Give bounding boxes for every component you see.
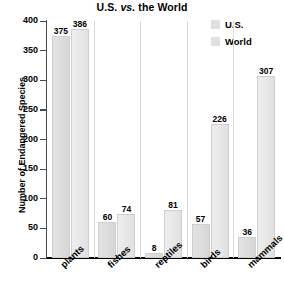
y-tick-label: 250	[4, 104, 38, 114]
y-tick-label: 0	[4, 252, 38, 262]
y-tick-mark	[40, 109, 47, 110]
y-tick-mark	[40, 198, 47, 199]
bar-value-label: 60	[103, 212, 112, 222]
category-separator	[233, 21, 234, 258]
y-tick-mark	[40, 80, 47, 81]
y-tick-mark	[40, 258, 47, 259]
y-tick-mark	[40, 228, 47, 229]
y-tick-mark	[40, 50, 47, 51]
y-tick-label: 200	[4, 134, 38, 144]
bar-value-label: 57	[196, 214, 205, 224]
category-separator	[94, 21, 95, 258]
bar-value-label: 226	[213, 114, 227, 124]
bar-plants-us: 375	[52, 36, 70, 258]
y-tick-label: 350	[4, 45, 38, 55]
bar-value-label: 307	[259, 66, 273, 76]
y-tick-label: 100	[4, 193, 38, 203]
chart-title-vs: vs.	[120, 1, 135, 13]
category-separator	[140, 21, 141, 258]
chart-title-after: the World	[135, 1, 187, 13]
bar-value-label: 386	[73, 19, 87, 29]
bar-value-label: 36	[242, 227, 251, 237]
chart-title: U.S. vs. the World	[0, 1, 284, 13]
plot-area: 37538660748815722636307	[47, 21, 280, 258]
y-tick-label: 400	[4, 15, 38, 25]
y-tick-mark	[40, 21, 47, 22]
bar-value-label: 81	[168, 200, 177, 210]
bar-value-label: 375	[54, 26, 68, 36]
y-tick-mark	[40, 139, 47, 140]
y-tick-label: 50	[4, 222, 38, 232]
chart-title-before: U.S.	[97, 1, 121, 13]
bar-plants-world: 386	[71, 29, 89, 258]
bar-value-label: 8	[152, 243, 157, 253]
y-tick-label: 150	[4, 163, 38, 173]
category-separator	[187, 21, 188, 258]
y-tick-label: 300	[4, 74, 38, 84]
bar-mammals-world: 307	[257, 76, 275, 258]
bar-value-label: 74	[122, 204, 131, 214]
y-tick-mark	[40, 169, 47, 170]
bar-birds-world: 226	[211, 124, 229, 258]
endangered-species-bar-chart: U.S. vs. the World U.S. World Number of …	[0, 0, 284, 304]
